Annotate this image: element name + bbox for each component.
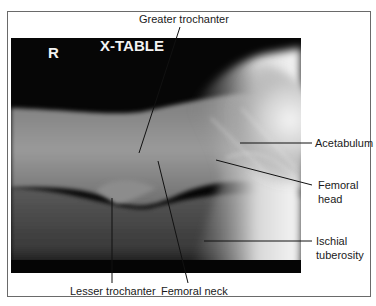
label-ischial-tuberosity-line2: tuberosity bbox=[316, 249, 364, 262]
leader-femoral-neck bbox=[158, 161, 188, 283]
leader-greater-trochanter bbox=[139, 27, 180, 153]
label-greater-trochanter: Greater trochanter bbox=[139, 13, 229, 26]
label-femoral-head-line2: head bbox=[318, 193, 342, 206]
leader-femoral-head bbox=[216, 160, 312, 185]
label-femoral-neck: Femoral neck bbox=[161, 285, 228, 298]
label-ischial-tuberosity-line1: Ischial bbox=[316, 235, 347, 248]
label-lesser-trochanter: Lesser trochanter bbox=[70, 285, 156, 298]
label-femoral-head-line1: Femoral bbox=[318, 179, 358, 192]
label-acetabulum: Acetabulum bbox=[315, 137, 373, 150]
